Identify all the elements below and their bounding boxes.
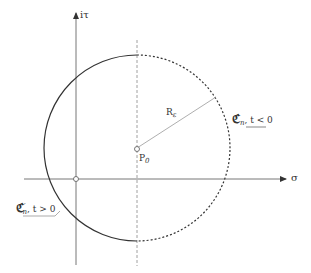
- right-dashed-arc: [137, 55, 230, 241]
- right-contour-label: ℭn, t < 0: [232, 113, 273, 127]
- radius-label-subscript: ε: [173, 111, 177, 119]
- center-label-subscript: 0: [145, 157, 149, 165]
- sigma-axis-label: σ: [291, 173, 298, 183]
- radius-label: Rε: [166, 108, 177, 119]
- center-label: P0: [139, 154, 150, 165]
- left-contour-label: ℭ′n, t > 0: [16, 202, 55, 216]
- radius-line: [137, 97, 216, 148]
- right-contour-symbol: ℭ: [232, 112, 240, 126]
- right-contour-condition: , t < 0: [245, 115, 273, 125]
- itau-axis-label: iτ: [80, 10, 89, 20]
- center-point: [135, 147, 140, 152]
- radius-label-text: R: [166, 107, 173, 117]
- origin-point: [74, 177, 79, 182]
- left-contour-condition: , t > 0: [27, 204, 55, 214]
- contour-diagram: [0, 0, 311, 273]
